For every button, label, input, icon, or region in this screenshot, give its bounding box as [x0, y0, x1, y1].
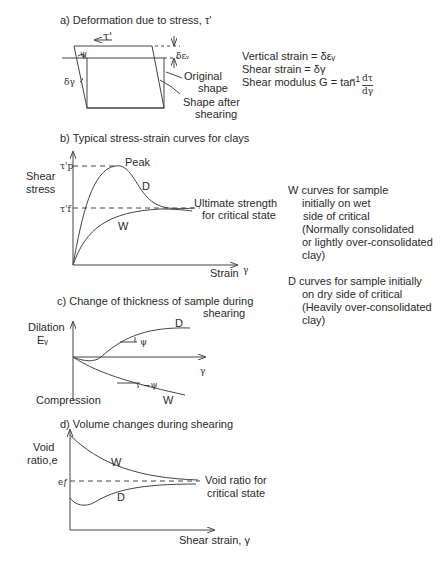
d-label-b: D — [142, 180, 150, 193]
panel-a-title: a) Deformation due to stress, τ' — [60, 14, 211, 27]
shear-modulus-eq: Shear modulus G = tan — [242, 76, 355, 89]
critical-1: Void ratio for — [205, 474, 267, 487]
legend-w-3: side of critical — [303, 210, 370, 223]
shear-strain-eq: Shear strain = δγ — [242, 63, 325, 76]
w-label-d: W — [111, 456, 121, 469]
legend-w-5: or lightly over-consolidated — [302, 236, 433, 249]
vertical-strain-eq: Vertical strain = δεᵥ — [242, 50, 335, 63]
ultimate-2: for critical state — [202, 209, 276, 222]
legend-d-2: on dry side of critical — [302, 288, 402, 301]
panel-b-title: b) Typical stress-strain curves for clay… — [60, 132, 249, 145]
x-symbol-c: γ — [200, 365, 205, 378]
original-shape — [87, 58, 164, 108]
ratio-label: ratio,e — [27, 454, 58, 467]
peak-label: Peak — [125, 156, 150, 169]
tau-p-label: τ'p — [60, 160, 73, 173]
ylabel-1: Shear — [26, 170, 55, 183]
w-label-c: W — [163, 394, 173, 407]
void-label: Void — [33, 441, 54, 454]
numerator: dτ — [362, 72, 373, 86]
sheared-shape-label-2: shearing — [195, 108, 237, 121]
x-symbol-b: γ — [243, 264, 248, 277]
superscript: −1 — [350, 73, 360, 86]
panel-a-shapes — [62, 36, 182, 108]
panel-d-axes — [70, 430, 214, 530]
d-label-c: D — [175, 317, 183, 330]
compression-label: Compression — [36, 394, 101, 407]
d-label-d: D — [117, 491, 125, 504]
ef-label: eƒ — [58, 476, 68, 489]
w-label-b: W — [118, 220, 128, 233]
curve-d-c — [73, 328, 190, 361]
denominator: dγ — [362, 85, 373, 98]
dgamma-label: δγ — [64, 76, 75, 89]
curve-w — [73, 209, 192, 265]
curve-w-d — [70, 435, 198, 480]
panel-c-title-2: shearing — [203, 307, 245, 320]
panel-d-title: d) Volume changes during shearing — [60, 418, 233, 431]
psi-label: ψ — [80, 48, 87, 61]
tau-label: τ' — [103, 30, 112, 43]
legend-w-4: (Normally consolidated — [302, 223, 414, 236]
ev-label: Eᵥ — [37, 334, 48, 347]
original-shape-label-2: shape — [198, 82, 228, 95]
xlabel-d: Shear strain, γ — [179, 534, 250, 547]
dilation-label: Dilation — [28, 321, 65, 334]
psi-label-c: ψ — [140, 336, 147, 349]
curve-d-d — [70, 484, 196, 505]
tau-f-label: τ'f — [60, 203, 71, 216]
legend-w-1: W curves for sample — [288, 184, 388, 197]
neg-psi-label: −ψ — [143, 379, 158, 392]
curve-d — [73, 166, 194, 265]
curve-w-c — [73, 357, 185, 395]
legend-w-2: initially on wet — [302, 197, 370, 210]
legend-d-3: (Heavily over-consolidated — [302, 301, 432, 314]
ylabel-2: stress — [26, 183, 55, 196]
xlabel-b: Strain — [210, 267, 239, 280]
legend-w-6: clay) — [302, 249, 325, 262]
panel-c-axes — [73, 322, 205, 400]
legend-d-1: D curves for sample initially — [288, 275, 422, 288]
dev-label: δεᵥ — [176, 50, 189, 63]
legend-d-4: clay) — [302, 314, 325, 327]
critical-2: critical state — [207, 487, 265, 500]
